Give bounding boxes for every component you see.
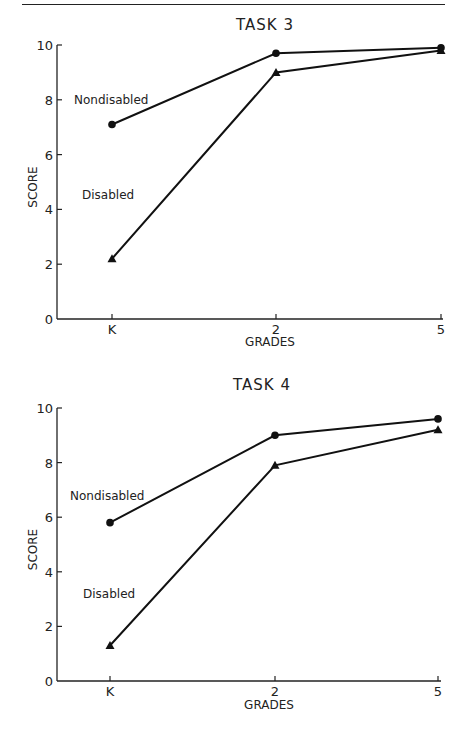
y-tick-label: 6 [45, 148, 53, 163]
y-tick-label: 8 [45, 93, 53, 108]
data-point-triangle [434, 425, 443, 433]
chart-title: TASK 4 [232, 376, 291, 394]
series-label: Nondisabled [74, 93, 148, 107]
series-line-disabled [110, 430, 438, 646]
series-label: Disabled [83, 587, 135, 601]
y-tick-label: 4 [45, 565, 53, 580]
series-line-disabled [112, 50, 441, 258]
y-tick-label: 8 [45, 456, 53, 471]
y-tick-label: 6 [45, 510, 53, 525]
chart-task-4: TASK 40246810K25GRADESSCORENondisabledDi… [0, 360, 466, 736]
data-point-circle [271, 432, 279, 440]
y-tick-label: 10 [36, 401, 53, 416]
x-tick-label: 5 [437, 322, 445, 337]
series-label: Nondisabled [70, 489, 144, 503]
x-tick-label: 5 [434, 684, 442, 699]
data-point-circle [272, 49, 280, 57]
series-line-nondisabled [112, 48, 441, 125]
x-axis-label: GRADES [245, 335, 295, 349]
x-tick-label: K [108, 322, 117, 337]
y-tick-label: 10 [36, 38, 53, 53]
y-tick-label: 0 [45, 312, 53, 327]
y-tick-label: 4 [45, 202, 53, 217]
data-point-circle [108, 121, 116, 129]
y-axis-label: SCORE [26, 529, 40, 570]
series-label: Disabled [82, 188, 134, 202]
y-axis-label: SCORE [26, 166, 40, 207]
chart-title: TASK 3 [235, 16, 294, 34]
x-axis-label: GRADES [244, 698, 294, 712]
data-point-circle [106, 519, 114, 527]
data-point-circle [434, 415, 442, 423]
x-tick-label: K [106, 684, 115, 699]
y-tick-label: 2 [45, 257, 53, 272]
y-tick-label: 0 [45, 674, 53, 689]
chart-task-3: TASK 30246810K25GRADESSCORENondisabledDi… [0, 0, 466, 360]
x-tick-label: 2 [271, 684, 279, 699]
y-tick-label: 2 [45, 619, 53, 634]
